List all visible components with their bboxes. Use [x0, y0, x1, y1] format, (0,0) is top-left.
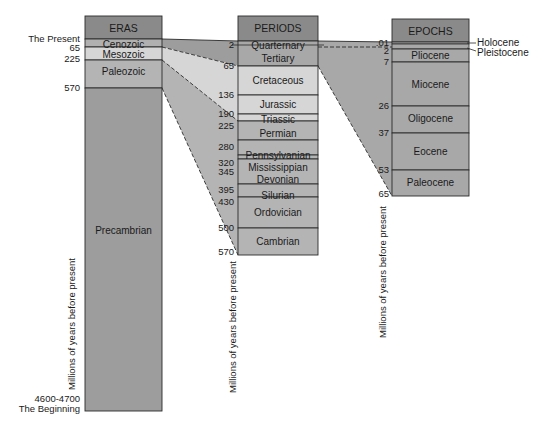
epoch-tick-53: 53 [378, 164, 389, 175]
epoch-miocene: Miocene [412, 79, 450, 90]
epoch-tick-26: 26 [378, 100, 389, 111]
period-tick-225: 225 [218, 120, 234, 131]
era-precambrian: Precambrian [95, 225, 152, 236]
epoch-eocene: Eocene [414, 146, 448, 157]
epoch-tick-7: 7 [384, 56, 389, 67]
period-tertiary: Tertiary [262, 53, 295, 64]
period-silurian: Silurian [261, 190, 294, 201]
periods-header: PERIODS [254, 22, 301, 34]
period-triassic: Triassic [261, 114, 295, 125]
period-tick-345: 345 [218, 166, 234, 177]
period-tick-500: 500 [218, 222, 234, 233]
era-tick-225: 225 [64, 53, 80, 64]
epoch-tick-37: 37 [378, 127, 389, 138]
epochs-axis-label: Millions of years before present [377, 206, 388, 338]
period-permian: Permian [259, 128, 296, 139]
epoch-paleocene: Paleocene [407, 177, 455, 188]
epoch-pliocene: Pliocene [411, 50, 450, 61]
period-tick-190: 190 [218, 108, 234, 119]
period-pennsylvanian: Pennsylvanian [245, 150, 310, 161]
geologic-time-diagram: ERAS Cenozoic Mesozoic Paleozoic Precamb… [0, 0, 547, 425]
period-tick-2: 2 [229, 39, 234, 50]
period-cretaceous: Cretaceous [252, 75, 303, 86]
epoch-oligocene: Oligocene [408, 113, 453, 124]
period-tick-136: 136 [218, 89, 234, 100]
epochs-column: EPOCHS Pliocene Miocene Oligocene Eocene… [376, 19, 529, 338]
period-tick-395: 395 [218, 184, 234, 195]
period-jurassic: Jurassic [260, 99, 297, 110]
period-ordovician: Ordovician [254, 207, 302, 218]
period-mississippian: Mississippian [248, 162, 307, 173]
era-paleozoic: Paleozoic [102, 66, 145, 77]
eras-column: ERAS Cenozoic Mesozoic Paleozoic Precamb… [19, 16, 162, 414]
period-cambrian: Cambrian [256, 236, 299, 247]
eras-axis-label: Millions of years before present [66, 258, 77, 390]
eras-header: ERAS [109, 22, 138, 34]
period-tick-430: 430 [218, 196, 234, 207]
epoch-tick-65: 65 [378, 188, 389, 199]
periods-axis-label: Millions of years before present [227, 261, 238, 393]
beginning-label: The Beginning [19, 403, 80, 414]
epochs-header: EPOCHS [408, 25, 452, 37]
era-mesozoic: Mesozoic [102, 49, 144, 60]
period-tick-65: 65 [223, 60, 234, 71]
epoch-tick-2: 2 [384, 45, 389, 56]
period-tick-570: 570 [218, 246, 234, 257]
period-devonian: Devonian [257, 174, 299, 185]
epoch-pleistocene: Pleistocene [477, 47, 529, 58]
era-tick-570: 570 [64, 82, 80, 93]
period-tick-280: 280 [218, 141, 234, 152]
period-quarternary: Quarternary [251, 40, 304, 51]
era-tick-65: 65 [69, 42, 80, 53]
